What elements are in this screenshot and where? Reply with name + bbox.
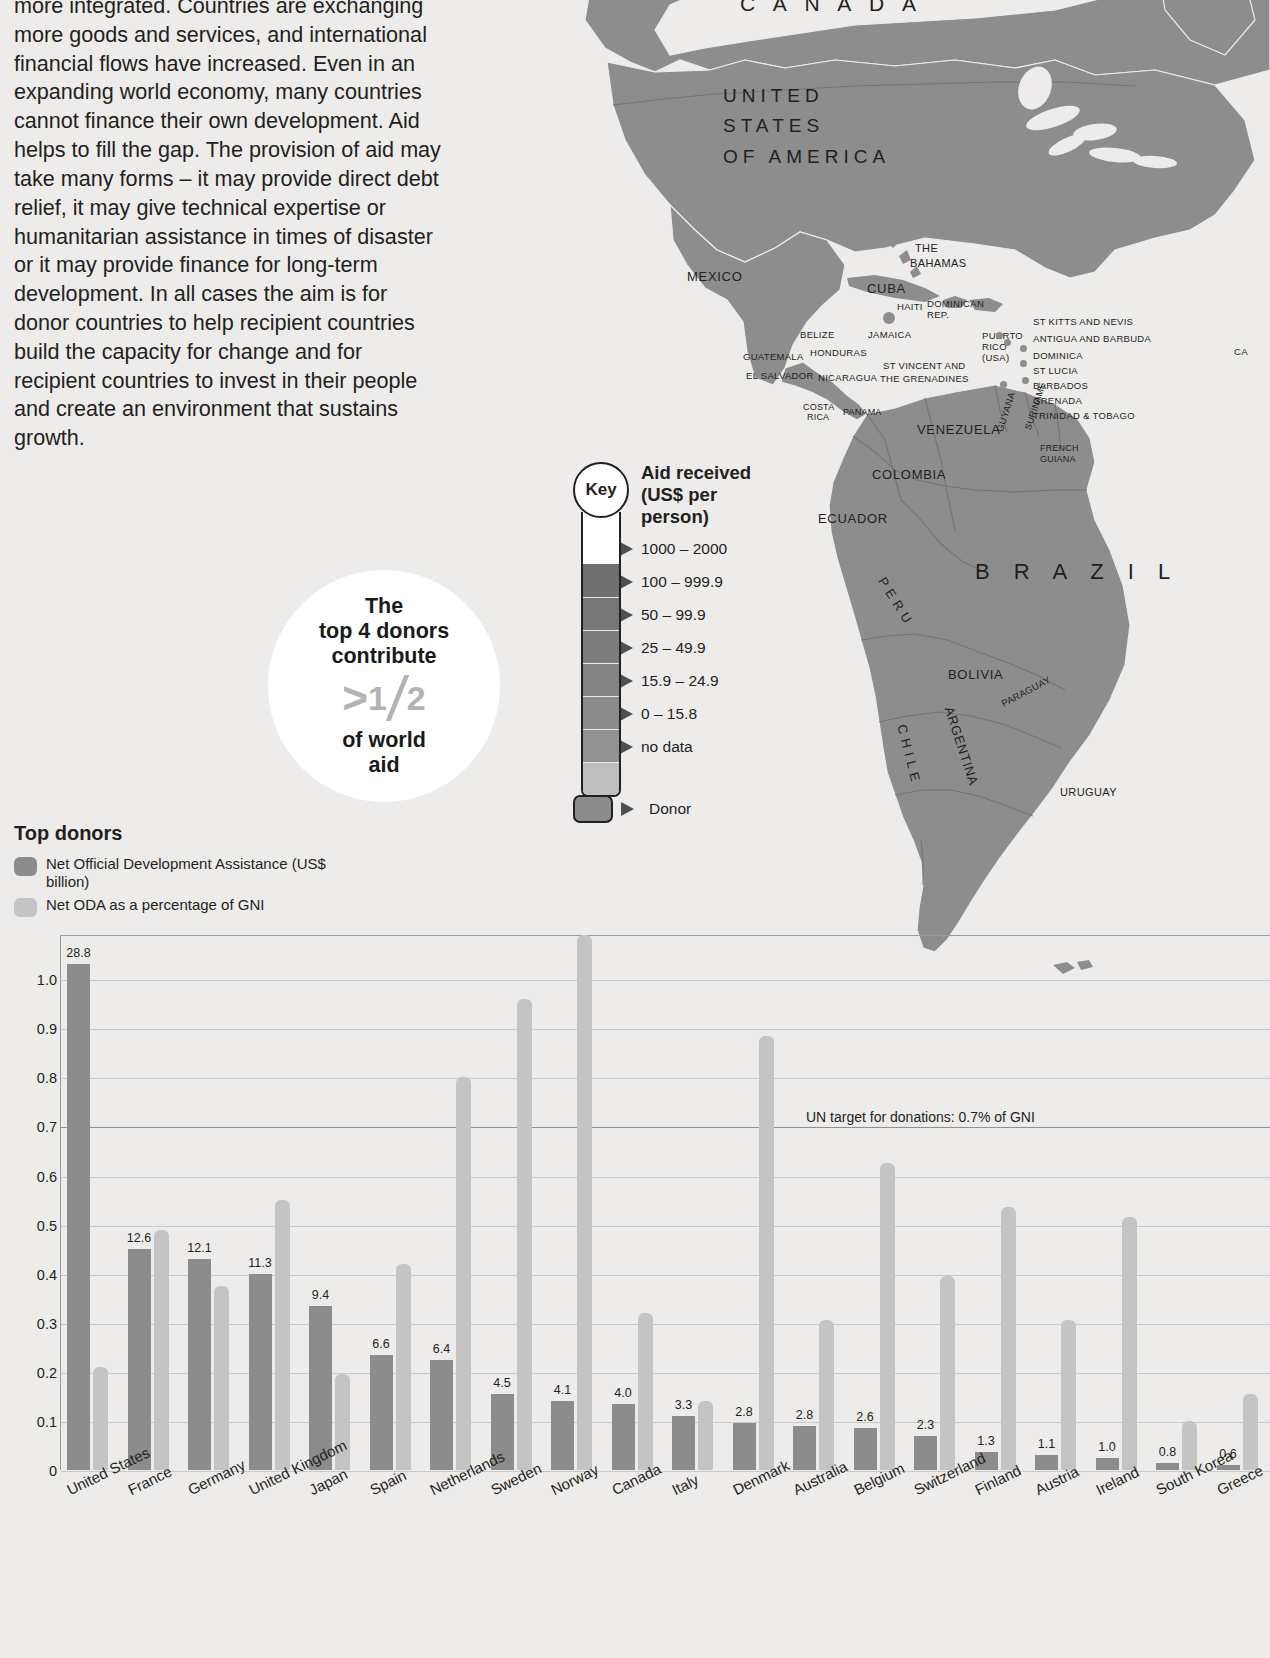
y-axis-tick-label: 0.8 (5, 1070, 57, 1086)
top-donors-bar-chart: Donations as percentage of GNI 00.10.20.… (0, 925, 1270, 1658)
fraction-greater-than: > (342, 676, 368, 720)
donor-label: Donor (649, 800, 691, 818)
bar-oda-billion (733, 1423, 756, 1470)
island-marker-dot (1000, 381, 1007, 388)
key-donor-row: Donor (573, 795, 691, 823)
key-band-label: no data (641, 738, 693, 756)
bar-value-label: 4.1 (554, 1383, 571, 1397)
bar-value-label: 4.0 (614, 1386, 631, 1400)
fraction-slash-icon (386, 675, 408, 721)
key-arrow-icon (620, 641, 633, 655)
key-band-swatch (583, 762, 619, 795)
y-axis-tick-label: 0.7 (5, 1119, 57, 1135)
bar-value-label: 4.5 (493, 1376, 510, 1390)
key-arrow-icon (620, 575, 633, 589)
bar-value-label: 6.6 (372, 1337, 389, 1351)
bar-oda-percent-gni (396, 1264, 411, 1470)
bar-oda-percent-gni (517, 999, 532, 1470)
key-arrow-icon (620, 674, 633, 688)
callout-line-1: The (319, 594, 449, 619)
island-marker-dot (996, 332, 1003, 339)
donor-arrow-icon (621, 802, 634, 816)
bar-group: 6.6 (370, 936, 431, 1470)
bar-oda-percent-gni (154, 1230, 169, 1471)
bar-oda-billion (67, 964, 90, 1470)
bar-oda-billion (854, 1428, 877, 1470)
key-title-line-2: (US$ per (641, 484, 806, 506)
legend-item: Net ODA as a percentage of GNI (14, 896, 344, 917)
bar-oda-billion (672, 1416, 695, 1470)
fraction-denominator: 2 (407, 681, 426, 715)
key-band-swatch (583, 630, 619, 663)
bar-group: 12.1 (188, 936, 249, 1470)
bar-oda-percent-gni (1061, 1320, 1076, 1470)
y-axis-tick-label: 0.5 (5, 1218, 57, 1234)
key-title-line-1: Aid received (641, 462, 806, 484)
bar-group: 1.1 (1035, 936, 1096, 1470)
bar-oda-percent-gni (698, 1401, 713, 1470)
callout-fraction: > 1 2 (342, 675, 426, 721)
bar-value-label: 11.3 (248, 1256, 271, 1270)
y-axis-tick-label: 0.4 (5, 1267, 57, 1283)
bar-value-label: 6.4 (433, 1342, 450, 1356)
island-marker-dot (1018, 394, 1025, 401)
fraction-numerator: 1 (368, 681, 387, 715)
bar-value-label: 28.8 (66, 946, 90, 960)
bar-oda-percent-gni (456, 1077, 471, 1470)
bar-group: 4.5 (491, 936, 552, 1470)
legend-item: Net Official Development Assistance (US$… (14, 855, 344, 891)
bar-oda-percent-gni (93, 1367, 108, 1470)
chart-legend: Top donors Net Official Development Assi… (14, 822, 344, 922)
bar-group: 1.3 (975, 936, 1036, 1470)
bar-oda-billion (370, 1355, 393, 1470)
bar-value-label: 9.4 (312, 1288, 329, 1302)
bar-group: 12.6 (128, 936, 189, 1470)
y-axis-tick-label: 0.3 (5, 1316, 57, 1332)
bar-value-label: 3.3 (675, 1398, 692, 1412)
key-band-label: 0 – 15.8 (641, 705, 697, 723)
bar-oda-billion (1156, 1463, 1179, 1470)
key-band-swatch (583, 597, 619, 630)
y-axis-tick-label: 0 (5, 1463, 57, 1479)
bar-group: 3.3 (672, 936, 733, 1470)
bar-oda-percent-gni (819, 1320, 834, 1470)
bar-oda-billion (249, 1274, 272, 1470)
bar-value-label: 2.3 (917, 1418, 934, 1432)
bar-oda-percent-gni (940, 1276, 955, 1470)
callout-line-5: aid (342, 753, 426, 778)
key-arrow-icon (620, 740, 633, 754)
bar-oda-billion (793, 1426, 816, 1470)
top-donors-callout: The top 4 donors contribute > 1 2 of wor… (268, 570, 500, 802)
y-axis-tick-label: 0.9 (5, 1021, 57, 1037)
key-band-swatch (583, 696, 619, 729)
bar-group: 2.3 (914, 936, 975, 1470)
y-axis-tick-label: 0.2 (5, 1365, 57, 1381)
key-badge-label: Key (585, 480, 616, 500)
bar-value-label: 2.8 (796, 1408, 813, 1422)
chart-legend-title: Top donors (14, 822, 344, 845)
island-marker-dot (1004, 339, 1011, 346)
key-band-row: 0 – 15.8 (641, 698, 806, 731)
bar-oda-billion (1096, 1458, 1119, 1470)
bar-value-label: 1.1 (1038, 1437, 1055, 1451)
bar-group: 0.8 (1156, 936, 1217, 1470)
bar-oda-percent-gni (1243, 1394, 1258, 1470)
legend-swatch (14, 857, 37, 876)
island-marker-dot (1020, 360, 1027, 367)
bar-group: 4.0 (612, 936, 673, 1470)
key-band-swatch (583, 663, 619, 696)
bar-group: 2.6 (854, 936, 915, 1470)
bar-value-label: 1.0 (1098, 1440, 1115, 1454)
bar-value-label: 1.3 (977, 1434, 994, 1448)
bar-group: 11.3 (249, 936, 310, 1470)
bar-oda-billion (128, 1249, 151, 1470)
key-band-label: 50 – 99.9 (641, 606, 706, 624)
bar-value-label: 0.8 (1159, 1445, 1176, 1459)
y-axis-tick-label: 0.6 (5, 1169, 57, 1185)
key-text-column: Aid received (US$ per person) 1000 – 200… (641, 462, 806, 764)
callout-line-2: top 4 donors (319, 619, 449, 644)
bar-oda-billion (430, 1360, 453, 1470)
bar-value-label: 12.1 (187, 1241, 211, 1255)
legend-swatch (14, 898, 37, 917)
key-band-swatch (583, 564, 619, 597)
